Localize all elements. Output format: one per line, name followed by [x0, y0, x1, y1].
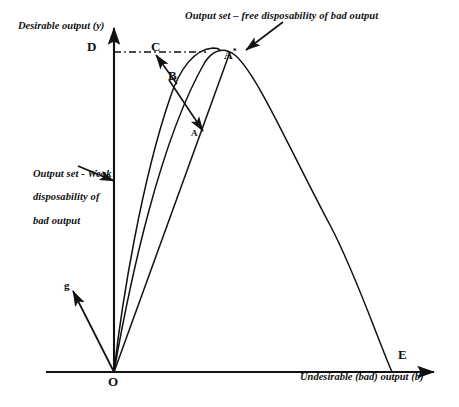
point-label-b: B: [168, 69, 177, 84]
point-label-origin: O: [108, 375, 118, 390]
point-label-d: D: [87, 40, 96, 55]
annotation-weak-line-2: disposability of: [33, 191, 100, 202]
annotation-weak-disposability: Output set - Weak disposability of bad o…: [22, 156, 118, 238]
annotation-weak-line-1: Output set - Weak: [33, 168, 112, 179]
point-label-a-star: A*: [224, 48, 237, 62]
figure-canvas: Desirable output (y) Undesirable (bad) o…: [0, 0, 459, 407]
curve-weak-disposability-frontier: [114, 48, 220, 372]
annotation-free-disposability: Output set – free disposability of bad o…: [185, 10, 378, 22]
point-label-a-star-superscript: *: [233, 47, 237, 56]
y-axis-label: Desirable output (y): [18, 20, 104, 32]
vector-g: [73, 291, 114, 372]
point-label-e: E: [398, 348, 407, 363]
x-axis-label: Undesirable (bad) output (b): [300, 371, 423, 383]
ray-origin-to-a-star: [114, 52, 230, 372]
vector-label-g: g: [64, 279, 70, 291]
arrow-b-to-a: [169, 80, 203, 131]
curve-free-disposability-frontier: [114, 50, 392, 372]
annotation-weak-line-3: bad output: [33, 215, 80, 226]
arrow-top-annotation-pointer: [246, 22, 283, 50]
point-label-a: A: [191, 128, 198, 138]
point-label-a-star-letter: A: [224, 48, 233, 62]
point-label-c: C: [151, 40, 160, 55]
